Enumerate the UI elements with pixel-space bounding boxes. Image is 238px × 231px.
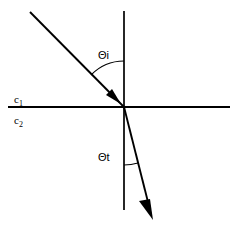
angle-transmission-arc [124, 163, 138, 165]
theta-t-label: Θt [98, 151, 110, 163]
c2-label: c2 [14, 114, 23, 129]
refraction-diagram: c1 c2 Θi Θt [0, 0, 238, 231]
diagram-canvas: c1 c2 Θi Θt [0, 0, 238, 231]
angle-incidence-arc [91, 61, 124, 75]
c1-label-subscript: 1 [19, 99, 23, 108]
c1-label: c1 [14, 93, 23, 108]
c2-label-subscript: 2 [19, 120, 23, 129]
transmitted-ray [124, 107, 150, 210]
transmitted-ray-arrowhead [139, 199, 153, 220]
theta-i-label: Θi [98, 49, 109, 61]
